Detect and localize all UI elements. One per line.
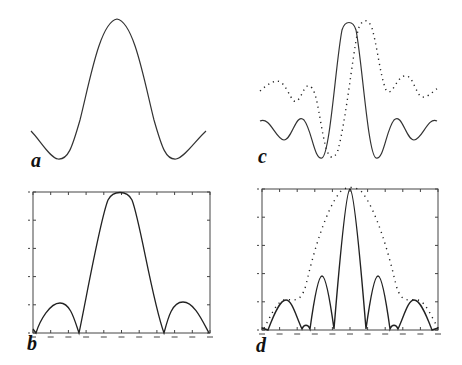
panel-b-ticks: [28, 192, 213, 337]
panel-c-dotted-curve: [260, 21, 438, 158]
panel-label-a: a: [31, 149, 41, 171]
panel-d-ticks: [257, 189, 441, 334]
panel-d-envelope-dotted: [264, 188, 438, 329]
panel-label-d: d: [256, 334, 267, 356]
panel-b: b: [27, 192, 213, 354]
panel-a-curve: [31, 19, 206, 159]
panel-b-axes-box: [33, 192, 210, 333]
panel-d-axes-box: [262, 189, 438, 330]
panel-d-solid-curve: [262, 189, 438, 330]
panel-label-b: b: [27, 332, 37, 354]
panel-c-solid-curve: [260, 23, 437, 159]
panel-c: c: [258, 21, 438, 167]
figure-canvas: a c b d: [0, 0, 462, 365]
panel-b-curve: [33, 193, 209, 334]
panel-a: a: [31, 19, 206, 171]
panel-label-c: c: [258, 145, 267, 167]
panel-d: d: [256, 188, 441, 357]
